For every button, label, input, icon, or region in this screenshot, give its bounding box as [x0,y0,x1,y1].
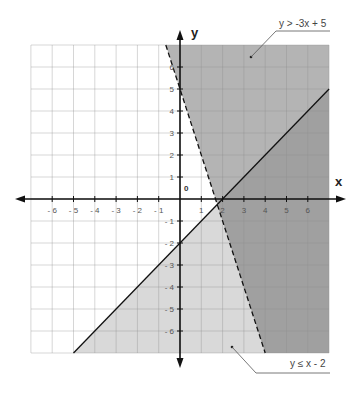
y-axis-arrow-up-icon [177,30,184,40]
x-tick-label: 3 [242,206,247,215]
y-tick-label: - 4 [165,283,175,292]
y-axis-label: y [191,25,199,40]
x-axis-arrow-left-icon [15,196,25,203]
y-tick-label: 6 [170,63,175,72]
x-tick-label: - 5 [69,206,79,215]
y-tick-label: 2 [170,151,175,160]
y-tick-label: 1 [170,173,175,182]
origin-label: 0 [184,184,189,193]
x-tick-label: - 1 [154,206,164,215]
x-tick-label: 1 [199,206,204,215]
x-axis-label: x [335,174,343,189]
x-tick-label: - 4 [90,206,100,215]
y-axis-arrow-down-icon [177,358,184,368]
annotation-bottom-label: y ≤ x - 2 [290,358,326,369]
x-tick-label: 5 [284,206,289,215]
x-tick-label: 2 [220,206,225,215]
inequality-graph: - 6- 5- 4- 3- 2- 1123456654321- 1- 2- 3-… [0,0,360,399]
x-axis-arrow-right-icon [336,196,346,203]
y-tick-label: - 5 [165,305,175,314]
y-tick-label: - 6 [165,327,175,336]
y-tick-label: - 1 [165,217,175,226]
x-tick-label: 4 [263,206,268,215]
x-tick-label: - 2 [133,206,143,215]
y-tick-label: - 3 [165,261,175,270]
annotation-top-label: y > -3x + 5 [279,18,327,29]
x-tick-label: 6 [306,206,311,215]
y-tick-label: 5 [170,85,175,94]
x-tick-label: - 3 [111,206,121,215]
y-tick-label: - 2 [165,239,175,248]
y-tick-label: 4 [170,107,175,116]
y-tick-label: 3 [170,129,175,138]
x-tick-label: - 6 [48,206,58,215]
